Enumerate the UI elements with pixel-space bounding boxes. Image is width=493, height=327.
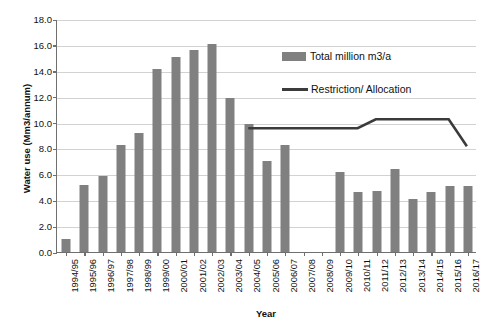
x-tick-label: 2011/12 — [380, 259, 390, 292]
water-use-chart: Water use (Mm3/annum) 0.02.04.06.08.010.… — [0, 0, 493, 327]
x-tick-mark — [176, 252, 177, 256]
y-tick-label: 2.0 — [39, 222, 52, 232]
x-tick-label: 2001/02 — [198, 259, 208, 293]
x-tick-mark — [121, 252, 122, 256]
x-tick-mark — [395, 252, 396, 256]
x-axis-title: Year — [56, 308, 476, 319]
x-tick-mark — [84, 252, 85, 256]
x-tick-mark — [157, 252, 158, 256]
x-tick-label: 2010/11 — [362, 259, 372, 292]
x-tick-label: 1995/96 — [88, 259, 98, 293]
x-tick-mark — [212, 252, 213, 256]
x-tick-label: 2008/09 — [325, 259, 335, 293]
y-tick-label: 4.0 — [39, 196, 52, 206]
x-tick-label: 2014/15 — [435, 259, 445, 293]
x-tick-label: 2007/08 — [307, 259, 317, 293]
x-tick-label: 2009/10 — [344, 259, 354, 293]
legend-label-total: Total million m3/a — [310, 50, 391, 62]
x-tick-mark — [468, 252, 469, 256]
x-tick-label: 2004/05 — [252, 259, 262, 293]
x-tick-mark — [66, 252, 67, 256]
y-tick-label: 0.0 — [39, 248, 52, 258]
y-axis-title: Water use (Mm3/annum) — [21, 59, 32, 219]
x-tick-mark — [358, 252, 359, 256]
y-tick-label: 12.0 — [34, 93, 53, 103]
x-tick-label: 2012/13 — [398, 259, 408, 293]
x-tick-mark — [431, 252, 432, 256]
line-swatch-icon — [282, 88, 308, 91]
y-tick-label: 14.0 — [34, 67, 53, 77]
line-path — [248, 119, 467, 146]
y-tick-label: 10.0 — [34, 119, 53, 129]
x-tick-label: 2002/03 — [216, 259, 226, 293]
x-tick-mark — [413, 252, 414, 256]
x-tick-label: 2005/06 — [271, 259, 281, 293]
x-tick-label: 2003/04 — [234, 259, 244, 293]
x-tick-mark — [304, 252, 305, 256]
legend-label-restriction: Restriction/ Allocation — [311, 83, 411, 95]
restriction-allocation-line — [57, 20, 476, 252]
x-tick-label: 1994/95 — [70, 259, 80, 293]
bar-swatch-icon — [282, 52, 306, 61]
x-tick-mark — [340, 252, 341, 256]
x-tick-label: 1996/97 — [106, 259, 116, 293]
x-tick-mark — [285, 252, 286, 256]
y-tick-label: 16.0 — [34, 41, 53, 51]
x-tick-mark — [249, 252, 250, 256]
x-tick-label: 2000/01 — [179, 259, 189, 293]
x-tick-mark — [103, 252, 104, 256]
x-tick-mark — [377, 252, 378, 256]
x-tick-mark — [194, 252, 195, 256]
x-tick-label: 2006/07 — [289, 259, 299, 293]
plot-area: 0.02.04.06.08.010.012.014.016.018.0 1994… — [56, 20, 476, 253]
x-tick-mark — [450, 252, 451, 256]
x-tick-label: 2016/17 — [471, 259, 481, 293]
y-tick-label: 8.0 — [39, 145, 52, 155]
x-tick-label: 1999/00 — [161, 259, 171, 293]
y-tick-mark — [53, 253, 57, 254]
x-tick-label: 1998/99 — [143, 259, 153, 293]
x-tick-mark — [267, 252, 268, 256]
legend-item-restriction: Restriction/ Allocation — [282, 83, 411, 95]
x-tick-mark — [322, 252, 323, 256]
x-tick-label: 2015/16 — [453, 259, 463, 293]
x-tick-mark — [139, 252, 140, 256]
chart-legend: Total million m3/a Restriction/ Allocati… — [282, 50, 411, 116]
y-tick-label: 6.0 — [39, 171, 52, 181]
x-tick-label: 1997/98 — [125, 259, 135, 293]
legend-item-total: Total million m3/a — [282, 50, 411, 62]
x-tick-label: 2013/14 — [417, 259, 427, 293]
x-tick-mark — [230, 252, 231, 256]
y-tick-label: 18.0 — [34, 15, 53, 25]
